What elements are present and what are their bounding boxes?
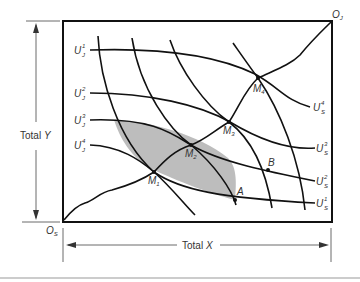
j-curve-label-2: U 2 J [74,86,86,101]
svg-text:1: 1 [324,196,327,202]
svg-text:U: U [74,45,82,56]
svg-text:U: U [316,198,324,209]
point-m4-label: M4 [253,83,265,95]
svg-text:U: U [316,143,324,154]
total-y-arrowhead-up [33,23,39,33]
total-x-arrowhead-left [66,242,76,248]
point-m3-label: M3 [223,125,235,137]
indifference-curve-s-4 [233,43,305,210]
svg-text:3: 3 [324,141,328,147]
s-curve-label-2: U 2 S [316,174,328,189]
point-m1 [152,170,156,174]
point-a [233,198,237,202]
svg-text:3: 3 [82,113,86,119]
svg-text:S: S [324,183,328,189]
point-b-label: B [268,157,275,168]
svg-text:2: 2 [81,86,86,92]
shaded-region [114,120,236,200]
svg-text:S: S [321,109,325,115]
point-m4 [256,76,260,80]
s-curve-label-3: U 3 S [316,141,328,156]
svg-text:J: J [81,52,86,58]
point-m2 [189,143,193,147]
svg-text:S: S [324,205,328,211]
total-x-label: Total X [182,240,213,251]
origin-s-label: OS [46,225,58,237]
point-m1-label: M1 [148,175,160,187]
origin-j-label: OJ [332,9,344,21]
svg-text:U: U [74,115,82,126]
point-m3 [227,120,231,124]
total-x-arrowhead-right [319,242,329,248]
svg-text:J: J [81,147,86,153]
svg-text:1: 1 [82,43,85,49]
j-curve-label-1: U 1 J [74,43,86,58]
svg-text:4: 4 [82,138,86,144]
svg-text:J: J [81,95,86,101]
svg-text:2: 2 [323,174,328,180]
svg-text:U: U [74,88,82,99]
point-a-label: A [236,186,244,197]
edgeworth-box-diagram: Total Y Total X OS OJ U 1 J U 2 J U 3 J … [0,0,360,282]
indifference-curve-j-1 [90,50,310,107]
total-y-arrowhead-down [33,210,39,220]
svg-text:U: U [316,176,324,187]
s-curve-label-4: U 4 S [313,100,325,115]
edgeworth-box-frame [63,21,332,222]
point-b [266,168,270,172]
j-curve-label-3: U 3 J [74,113,86,128]
svg-text:U: U [74,140,82,151]
svg-text:4: 4 [321,100,325,106]
svg-text:S: S [324,150,328,156]
j-curve-label-4: U 4 J [74,138,86,153]
svg-text:J: J [81,122,86,128]
svg-text:U: U [313,102,321,113]
total-y-label: Total Y [20,130,52,141]
s-curve-label-1: U 1 S [316,196,328,211]
